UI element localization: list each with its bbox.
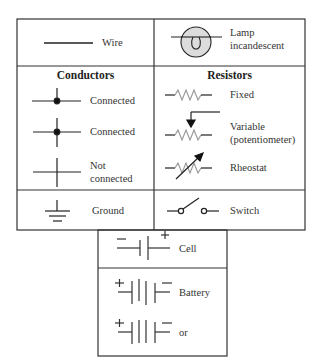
- diagram-canvas: [0, 0, 320, 363]
- cell-icon: [117, 231, 170, 260]
- resistors-header: Resistors: [154, 69, 305, 81]
- conductors-header: Conductors: [17, 69, 154, 81]
- connected-cross-label: Connected: [90, 126, 135, 138]
- ground-icon: [45, 200, 70, 221]
- not-connected-label-line2: connected: [90, 173, 133, 185]
- lamp-icon: [171, 27, 222, 57]
- variable-resistor-label-line2: (potentiometer): [230, 134, 295, 146]
- junction-not-connected-icon: [33, 158, 81, 187]
- battery-alt-label: or: [179, 327, 188, 339]
- rheostat-icon: [165, 153, 212, 179]
- battery-icon: [115, 279, 172, 305]
- battery-label: Battery: [179, 287, 210, 299]
- junction-cross-connected-icon: [33, 118, 81, 147]
- resistor-variable-icon: [165, 112, 220, 140]
- battery-alt-icon: [115, 319, 172, 344]
- fixed-resistor-label: Fixed: [230, 89, 254, 101]
- connected-t-label: Connected: [90, 95, 135, 107]
- ground-label: Ground: [92, 205, 124, 217]
- lamp-label-line1: Lamp: [230, 27, 255, 39]
- switch-icon: [167, 198, 219, 214]
- resistor-fixed-icon: [165, 90, 212, 100]
- rheostat-label: Rheostat: [230, 162, 267, 174]
- variable-resistor-label-line1: Variable: [230, 121, 265, 133]
- cell-label: Cell: [179, 243, 197, 255]
- switch-label: Switch: [230, 205, 259, 217]
- lamp-label-line2: incandescent: [230, 40, 284, 52]
- wire-label: Wire: [102, 37, 123, 49]
- junction-t-connected-icon: [32, 88, 81, 104]
- not-connected-label-line1: Not: [90, 160, 106, 172]
